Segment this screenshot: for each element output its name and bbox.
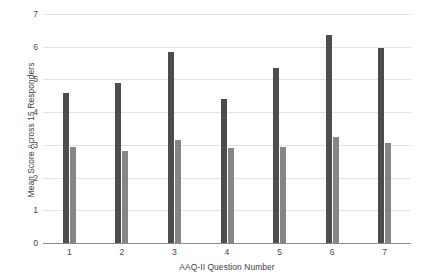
bar xyxy=(122,151,128,243)
y-tick-label: 4 xyxy=(12,108,38,117)
bar-group xyxy=(273,14,286,243)
y-tick-label: 1 xyxy=(12,206,38,215)
x-axis-tick-labels: 1234567 xyxy=(43,247,411,261)
x-axis-line xyxy=(43,243,411,244)
bar xyxy=(63,93,69,243)
plot-area xyxy=(43,14,411,243)
bar xyxy=(221,99,227,243)
bar xyxy=(175,140,181,243)
x-tick-label: 6 xyxy=(317,247,347,257)
bar xyxy=(378,48,384,243)
y-tick-label: 2 xyxy=(12,174,38,183)
bar xyxy=(273,68,279,243)
bar xyxy=(228,148,234,243)
y-tick-label: 5 xyxy=(12,75,38,84)
bar-group xyxy=(221,14,234,243)
bar-group xyxy=(168,14,181,243)
bar xyxy=(385,143,391,243)
y-tick-label: 7 xyxy=(12,10,38,19)
bar xyxy=(70,147,76,244)
bar-group xyxy=(378,14,391,243)
x-tick-label: 4 xyxy=(212,247,242,257)
bar-group xyxy=(63,14,76,243)
bar-group xyxy=(326,14,339,243)
bar xyxy=(326,35,332,243)
x-tick-label: 3 xyxy=(159,247,189,257)
bar xyxy=(280,147,286,244)
bar xyxy=(168,52,174,243)
y-tick-label: 6 xyxy=(12,43,38,52)
bar-group xyxy=(115,14,128,243)
bar-chart: Mean Score Across 15 Responders 01234567… xyxy=(0,0,434,280)
bar xyxy=(333,137,339,243)
x-tick-label: 1 xyxy=(54,247,84,257)
x-tick-label: 7 xyxy=(370,247,400,257)
x-tick-label: 5 xyxy=(265,247,295,257)
y-axis-tick-labels: 01234567 xyxy=(8,0,38,280)
x-tick-label: 2 xyxy=(107,247,137,257)
y-tick-label: 3 xyxy=(12,141,38,150)
y-tick-label: 0 xyxy=(12,239,38,248)
bar xyxy=(115,83,121,243)
x-axis-title: AAQ-II Question Number xyxy=(43,262,411,272)
